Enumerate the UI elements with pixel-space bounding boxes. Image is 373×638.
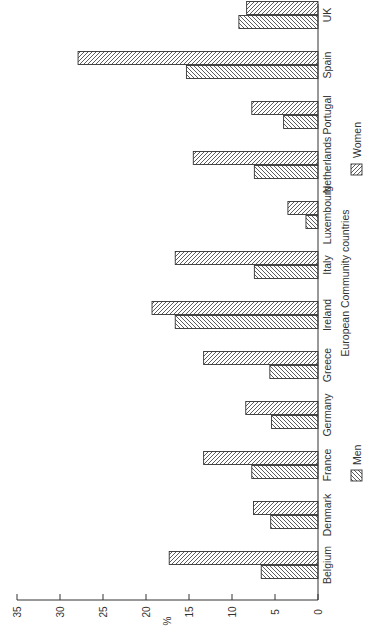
bar-men: [175, 316, 318, 329]
bar-women: [246, 402, 318, 415]
category-label: Spain: [321, 51, 333, 78]
category-label: Germany: [321, 393, 333, 437]
bar-men: [270, 366, 318, 379]
bar-men: [254, 166, 318, 179]
category-label: Luxembourg: [321, 186, 333, 245]
tick-label: 5: [270, 609, 281, 615]
bar-men: [252, 466, 318, 479]
tick-label: 15: [184, 606, 195, 618]
hatch-swatch-icon: [351, 470, 362, 481]
category-label: Belgium: [321, 546, 333, 584]
bar-men: [254, 266, 318, 279]
bar-women: [247, 2, 318, 15]
tick-label: 30: [55, 606, 66, 618]
legend-label-men: Men: [351, 444, 363, 465]
bar-women: [204, 452, 318, 465]
bar-men: [239, 16, 318, 29]
category-label: France: [321, 449, 333, 482]
category-label: Greece: [321, 348, 333, 383]
bar-women: [78, 52, 318, 65]
bar-men: [186, 66, 318, 79]
bar-women: [152, 302, 318, 315]
tick-label: 0: [313, 609, 324, 615]
category-axis-title: European Community countries: [339, 209, 351, 356]
legend-item-men: Men: [351, 444, 363, 481]
bar-women: [175, 252, 318, 265]
tick-label: 20: [141, 606, 152, 618]
tick-label: 25: [98, 606, 109, 618]
bar-men: [261, 566, 318, 579]
category-label: UK: [321, 8, 333, 23]
bar-women: [254, 502, 319, 515]
value-axis-title: %: [162, 616, 173, 625]
chart-canvas: 05101520253035 BelgiumDenmarkFranceGerma…: [0, 0, 373, 638]
bar-men: [306, 216, 318, 229]
bar-women: [252, 102, 318, 115]
bar-women: [169, 552, 318, 565]
category-label: Portugal: [321, 95, 333, 134]
legend-item-women: Women: [351, 122, 363, 175]
bar-women: [288, 202, 318, 215]
category-label: Netherlands: [321, 137, 333, 194]
category-label: Ireland: [321, 299, 333, 331]
category-label: Denmark: [321, 493, 333, 536]
bar-chart: 05101520253035 BelgiumDenmarkFranceGerma…: [0, 0, 373, 638]
bar-women: [193, 152, 318, 165]
bar-men: [272, 416, 318, 429]
tick-label: 10: [227, 606, 238, 618]
bar-men: [284, 116, 318, 129]
bar-women: [204, 352, 318, 365]
legend-label-women: Women: [351, 122, 363, 158]
tick-label: 35: [12, 606, 23, 618]
category-label: Italy: [321, 255, 333, 275]
bar-men: [271, 516, 318, 529]
hatch-swatch-icon: [351, 164, 362, 175]
value-axis: 05101520253035: [12, 594, 324, 618]
category-axis: BelgiumDenmarkFranceGermanyGreeceIreland…: [318, 4, 333, 600]
bars-layer: [78, 2, 318, 579]
